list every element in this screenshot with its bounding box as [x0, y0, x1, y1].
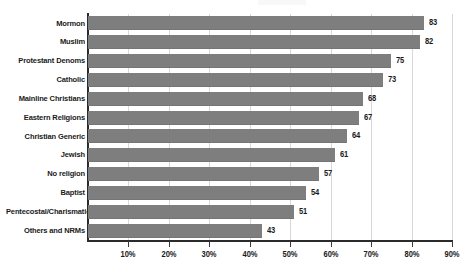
bar: [88, 205, 294, 219]
x-tick-label: 30%: [202, 250, 217, 259]
x-tick-label: 50%: [283, 250, 298, 259]
bar: [88, 111, 359, 125]
bar: [88, 224, 262, 238]
bar-value-label: 57: [324, 169, 332, 178]
x-tick-label: 60%: [323, 250, 338, 259]
bar-value-label: 43: [267, 226, 275, 235]
x-tick: [128, 241, 129, 247]
x-tick-label: 80%: [404, 250, 419, 259]
bar: [88, 167, 319, 181]
bar-row: 43: [88, 224, 452, 238]
x-tick: [412, 241, 413, 247]
x-tick-label: 70%: [364, 250, 379, 259]
bar-row: 54: [88, 186, 452, 200]
bar-chart: MormonMuslimProtestant DenomsCatholicMai…: [0, 0, 476, 275]
bar-value-label: 82: [425, 37, 433, 46]
category-label: Muslim: [6, 37, 85, 47]
bar: [88, 92, 363, 106]
category-label: Others and NRMs: [6, 226, 85, 236]
bar-row: 83: [88, 16, 452, 30]
bar-value-label: 54: [311, 188, 319, 197]
bar: [88, 186, 306, 200]
x-tick: [290, 241, 291, 247]
bar: [88, 73, 383, 87]
x-tick: [371, 241, 372, 247]
bar-value-label: 64: [352, 131, 360, 140]
category-label: Jewish: [6, 150, 85, 160]
plot-area: 838275736867646157545143 10%20%30%40%50%…: [88, 14, 452, 240]
bar-row: 73: [88, 73, 452, 87]
x-tick: [331, 241, 332, 247]
category-label: Mormon: [6, 19, 85, 29]
category-label: Pentecostal/Charismatic: [6, 207, 85, 217]
x-tick-label: 20%: [161, 250, 176, 259]
x-tick: [250, 241, 251, 247]
bar-value-label: 51: [299, 207, 307, 216]
bar-value-label: 61: [340, 150, 348, 159]
x-tick-label: 90%: [445, 250, 460, 259]
bar-row: 51: [88, 205, 452, 219]
x-tick-label: 40%: [242, 250, 257, 259]
bar-value-label: 68: [368, 94, 376, 103]
category-label: Mainline Christians: [6, 94, 85, 104]
gridline: [452, 14, 453, 240]
x-axis-line: [87, 240, 453, 242]
bar-row: 67: [88, 111, 452, 125]
bar-row: 61: [88, 148, 452, 162]
bar: [88, 35, 420, 49]
category-label: Protestant Denoms: [6, 56, 85, 66]
category-axis-labels: MormonMuslimProtestant DenomsCatholicMai…: [0, 14, 85, 240]
x-tick: [209, 241, 210, 247]
category-label: Eastern Religions: [6, 113, 85, 123]
x-tick: [169, 241, 170, 247]
bar: [88, 16, 424, 30]
category-label: Baptist: [6, 188, 85, 198]
bar-row: 75: [88, 54, 452, 68]
x-tick: [452, 241, 453, 247]
bar-value-label: 83: [429, 18, 437, 27]
bar: [88, 129, 347, 143]
cropped-title-artifact: [258, 0, 306, 5]
category-label: Catholic: [6, 75, 85, 85]
bar-row: 82: [88, 35, 452, 49]
category-label: No religion: [6, 169, 85, 179]
bar-row: 68: [88, 92, 452, 106]
bar-value-label: 73: [388, 75, 396, 84]
category-label: Christian Generic: [6, 132, 85, 142]
bar-value-label: 67: [364, 113, 372, 122]
bar-value-label: 75: [396, 56, 404, 65]
x-tick-label: 10%: [121, 250, 136, 259]
bar-row: 64: [88, 129, 452, 143]
bar-row: 57: [88, 167, 452, 181]
bar: [88, 54, 391, 68]
bar: [88, 148, 335, 162]
